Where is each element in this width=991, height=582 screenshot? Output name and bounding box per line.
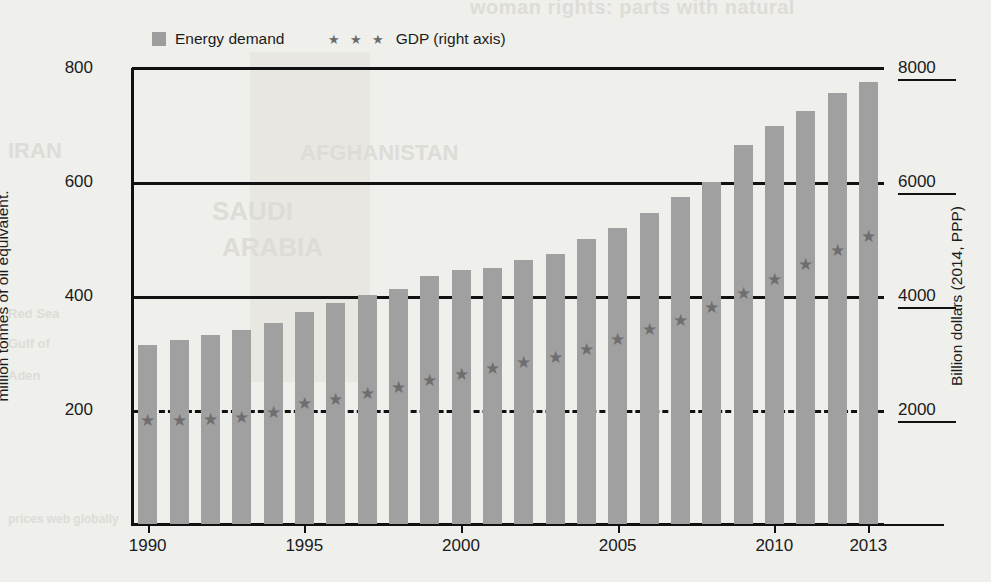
right-tick-4000: 4000 [898,286,936,306]
left-tick-400: 400 [65,286,93,306]
right-tick-rule-2000 [898,421,956,423]
gdp-point-2009: ★ [736,285,751,302]
gdp-point-1993: ★ [234,408,249,425]
left-tick-200: 200 [65,400,93,420]
gdp-point-1994: ★ [266,403,281,420]
gdp-point-2000: ★ [454,365,469,382]
gdp-point-1992: ★ [203,411,218,428]
right-tick-8000: 8000 [898,58,936,78]
energy-demand-gdp-chart: Energy demand ★ ★ ★ GDP (right axis) ★★★… [0,0,991,582]
gdp-point-1991: ★ [172,411,187,428]
gdp-point-2013: ★ [861,227,876,244]
point-series-gdp: ★★★★★★★★★★★★★★★★★★★★★★★★ [132,68,884,524]
gdp-point-1997: ★ [360,385,375,402]
legend-star-icon: ★ ★ ★ [328,33,386,46]
x-tick-label-2000: 2000 [442,536,480,556]
right-tick-rule-8000 [898,79,956,81]
right-axis-baseline [884,524,944,526]
right-tick-2000: 2000 [898,400,936,420]
x-tick-mark-2000 [461,524,463,533]
gdp-point-1999: ★ [422,372,437,389]
gdp-point-2007: ★ [673,311,688,328]
x-tick-mark-1995 [304,524,306,533]
gdp-point-1996: ★ [328,390,343,407]
gdp-point-2006: ★ [642,321,657,338]
gdp-point-2005: ★ [610,330,625,347]
x-tick-label-2010: 2010 [755,536,793,556]
left-tick-600: 600 [65,172,93,192]
plot-area: ★★★★★★★★★★★★★★★★★★★★★★★★ [132,68,884,524]
legend-label-energy-demand: Energy demand [175,30,284,48]
gdp-point-1990: ★ [140,412,155,429]
gdp-point-2011: ★ [798,256,813,273]
gdp-point-2003: ★ [548,348,563,365]
x-tick-label-2013: 2013 [849,536,887,556]
legend-label-gdp: GDP (right axis) [396,30,506,48]
gdp-point-2001: ★ [485,359,500,376]
x-tick-mark-1990 [148,524,150,533]
x-tick-label-1995: 1995 [285,536,323,556]
legend-item-energy-demand: Energy demand [152,30,284,48]
gdp-point-2012: ★ [830,241,845,258]
gdp-point-2008: ★ [704,299,719,316]
left-axis-title: million tonnes of oil equivalent. [0,190,12,401]
chart-legend: Energy demand ★ ★ ★ GDP (right axis) [0,30,991,52]
x-tick-label-2005: 2005 [599,536,637,556]
right-axis-title: Billion dollars (2014, PPP) [948,206,966,386]
gdp-point-2002: ★ [516,354,531,371]
x-tick-mark-2005 [618,524,620,533]
right-tick-6000: 6000 [898,172,936,192]
gdp-point-2010: ★ [767,270,782,287]
legend-item-gdp: ★ ★ ★ GDP (right axis) [328,30,505,48]
left-tick-800: 800 [65,58,93,78]
gdp-point-1995: ★ [297,394,312,411]
gdp-point-1998: ★ [391,379,406,396]
x-tick-mark-2013 [868,524,870,533]
gdp-point-2004: ★ [579,341,594,358]
x-tick-label-1990: 1990 [129,536,167,556]
x-tick-mark-2010 [774,524,776,533]
legend-swatch-icon [152,32,166,46]
right-tick-rule-6000 [898,193,956,195]
